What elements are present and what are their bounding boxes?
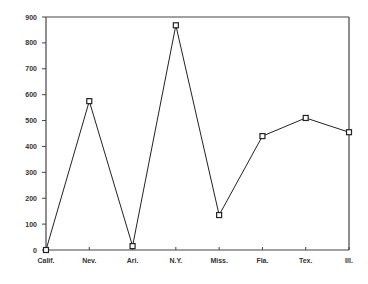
data-line — [46, 25, 349, 250]
square-marker-icon — [217, 213, 222, 218]
plot-frame — [46, 17, 349, 250]
square-marker-icon — [303, 115, 308, 120]
x-tick-label: Nev. — [82, 257, 96, 264]
x-tick-label: Ari. — [127, 257, 139, 264]
y-tick-label: 900 — [25, 14, 37, 21]
square-marker-icon — [173, 23, 178, 28]
square-marker-icon — [347, 130, 352, 135]
y-tick-label: 0 — [33, 247, 37, 254]
x-tick-label: Tex. — [299, 257, 313, 264]
y-tick-label: 700 — [25, 65, 37, 72]
y-tick-label: 800 — [25, 39, 37, 46]
y-tick-label: 300 — [25, 169, 37, 176]
y-tick-label: 600 — [25, 91, 37, 98]
y-axis-ticks: 0100200300400500600700800900 — [25, 14, 46, 254]
y-tick-label: 400 — [25, 143, 37, 150]
square-marker-icon — [260, 134, 265, 139]
square-marker-icon — [87, 99, 92, 104]
x-tick-label: N.Y. — [169, 257, 182, 264]
y-tick-label: 200 — [25, 195, 37, 202]
x-tick-label: Fla. — [256, 257, 268, 264]
line-chart: 0100200300400500600700800900 Calif.Nev.A… — [0, 0, 368, 284]
x-tick-label: Ill. — [345, 257, 353, 264]
y-tick-label: 100 — [25, 221, 37, 228]
y-tick-label: 500 — [25, 117, 37, 124]
square-marker-icon — [130, 244, 135, 249]
data-markers — [44, 23, 352, 253]
x-tick-label: Miss. — [210, 257, 228, 264]
square-marker-icon — [44, 248, 49, 253]
x-tick-label: Calif. — [37, 257, 54, 264]
